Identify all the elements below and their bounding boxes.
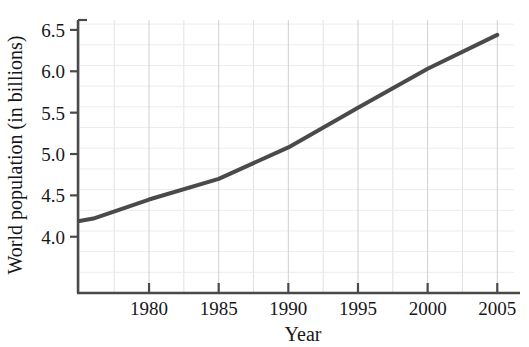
y-tick-label: 6.0 — [41, 61, 65, 82]
minor-gridlines — [78, 20, 514, 293]
x-axis-tick-labels: 198019851990199520002005 — [130, 298, 516, 319]
x-tick-label: 2000 — [409, 298, 447, 319]
x-axis-title: Year — [285, 323, 322, 345]
y-tick-label: 5.5 — [41, 103, 65, 124]
y-tick-label: 6.5 — [41, 20, 65, 41]
x-tick-label: 1995 — [339, 298, 377, 319]
x-tick-label: 1990 — [269, 298, 307, 319]
x-tick-label: 1980 — [130, 298, 168, 319]
y-tick-label: 5.0 — [41, 144, 65, 165]
x-tick-label: 2005 — [478, 298, 516, 319]
y-axis-tick-labels: 4.04.55.05.56.06.5 — [41, 20, 65, 248]
line-chart: 198019851990199520002005 4.04.55.05.56.0… — [0, 0, 529, 347]
x-tick-label: 1985 — [200, 298, 238, 319]
y-tick-label: 4.5 — [41, 185, 65, 206]
y-axis-title: World population (in billions) — [4, 36, 27, 275]
chart-figure: 198019851990199520002005 4.04.55.05.56.0… — [0, 0, 529, 347]
y-tick-label: 4.0 — [41, 227, 65, 248]
